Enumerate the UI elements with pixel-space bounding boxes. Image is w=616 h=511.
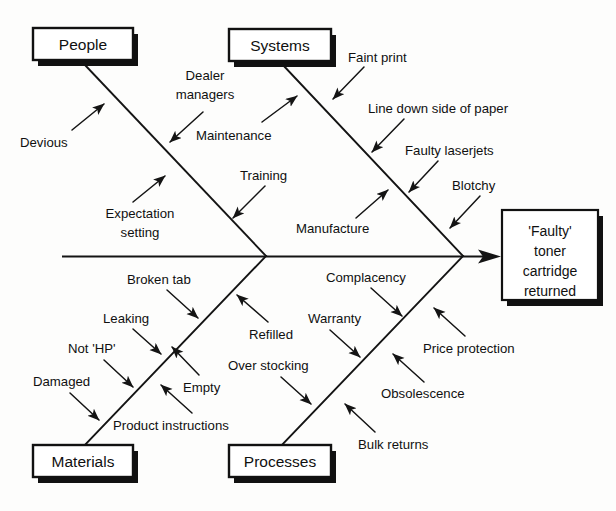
cause-label-price-protection: Price protection: [423, 341, 515, 356]
cause-refilled[interactable]: Refilled: [237, 295, 293, 342]
leader-not-hp: [104, 360, 133, 387]
cause-price-protection[interactable]: Price protection: [423, 308, 515, 356]
effect-line-4: returned: [524, 283, 576, 299]
cause-label-faulty-laserjets: Manufacture: [296, 221, 369, 236]
leader-price-protection: [434, 308, 465, 336]
leader-expectation-setting: [133, 176, 165, 202]
cause-empty[interactable]: Empty: [172, 347, 221, 395]
leader-devious: [72, 104, 104, 130]
leader-complacency: [371, 288, 402, 316]
category-box-systems[interactable]: Systems: [229, 29, 336, 67]
leader-obsolescence: [393, 354, 424, 382]
cause-damaged[interactable]: Damaged: [33, 374, 99, 420]
cause-label-expectation-setting-line2: setting: [121, 225, 160, 240]
category-box-people[interactable]: People: [33, 28, 138, 66]
effect-box[interactable]: 'Faulty' toner cartridge returned: [502, 210, 603, 306]
category-label-systems: Systems: [250, 37, 310, 54]
cause-maintenance[interactable]: Maintenance: [196, 96, 297, 143]
cause-label-empty: Empty: [183, 380, 221, 395]
cause-label-dealer-managers-line2: managers: [176, 87, 235, 102]
leader-warranty: [330, 330, 360, 357]
cause-label-faint-print: Faint print: [348, 50, 407, 65]
cause-label-warranty: Warranty: [308, 311, 361, 326]
cause-faint-print[interactable]: Faint print: [333, 50, 407, 99]
cause-devious[interactable]: Devious: [20, 104, 104, 150]
effect-line-1: 'Faulty': [528, 223, 571, 239]
cause-label-training: Training: [240, 168, 287, 183]
cause-label-damaged: Damaged: [33, 374, 90, 389]
cause-faulty-laserjets[interactable]: Manufacture: [296, 190, 388, 236]
leader-manufacture: [409, 161, 438, 192]
cause-training[interactable]: Training: [233, 168, 287, 218]
leader-maintenance: [262, 96, 297, 122]
cause-blotchy[interactable]: Blotchy: [450, 178, 496, 228]
leader-leaking: [133, 329, 161, 354]
leader-over-stocking: [281, 377, 311, 404]
leader-damaged: [70, 393, 99, 420]
category-box-materials[interactable]: Materials: [33, 445, 138, 483]
cause-label-blotchy: Blotchy: [452, 178, 496, 193]
cause-label-manufacture: Faulty laserjets: [405, 143, 494, 158]
cause-label-maintenance: Maintenance: [196, 128, 272, 143]
cause-label-dealer-managers-line1: Dealer: [186, 68, 225, 83]
leader-faint-print: [333, 67, 364, 99]
cause-over-stocking[interactable]: Over stocking: [228, 358, 311, 404]
cause-label-line-down-side: Line down side of paper: [368, 101, 509, 116]
leader-refilled: [237, 295, 268, 322]
category-label-people: People: [59, 36, 107, 53]
category-label-materials: Materials: [52, 453, 115, 470]
category-label-processes: Processes: [244, 453, 317, 470]
leader-faulty-laserjets: [356, 190, 388, 218]
leader-blotchy: [450, 196, 480, 228]
cause-warranty[interactable]: Warranty: [308, 311, 361, 357]
leader-training: [233, 186, 265, 218]
spine-group: [62, 250, 501, 264]
cause-label-over-stocking: Over stocking: [228, 358, 309, 373]
cause-obsolescence[interactable]: Obsolescence: [381, 354, 465, 401]
cause-label-bulk-returns: Bulk returns: [358, 437, 429, 452]
leader-bulk-returns: [345, 404, 375, 432]
effect-line-2: toner: [534, 243, 566, 259]
category-box-processes[interactable]: Processes: [229, 445, 336, 483]
cause-bulk-returns[interactable]: Bulk returns: [345, 404, 429, 452]
cause-label-not-hp: Not 'HP': [68, 341, 116, 356]
cause-label-broken-tab: Broken tab: [127, 272, 191, 287]
cause-expectation-setting[interactable]: Expectation setting: [106, 176, 175, 240]
leader-line-down-side: [372, 119, 404, 152]
leader-broken-tab: [167, 290, 198, 318]
fishbone-diagram-canvas: People Systems Materials Processes 'Faul…: [0, 0, 616, 511]
cause-label-refilled: Refilled: [249, 327, 293, 342]
effect-line-3: cartridge: [523, 263, 578, 279]
fishbone-diagram: People Systems Materials Processes 'Faul…: [0, 0, 616, 511]
leader-empty: [172, 347, 199, 375]
cause-label-leaking: Leaking: [103, 311, 149, 326]
cause-label-obsolescence: Obsolescence: [381, 386, 465, 401]
cause-label-complacency: Complacency: [326, 270, 406, 285]
cause-label-expectation-setting-line1: Expectation: [106, 206, 175, 221]
cause-label-product-instructions: Product instructions: [113, 418, 229, 433]
cause-complacency[interactable]: Complacency: [326, 270, 406, 316]
cause-label-devious: Devious: [20, 135, 68, 150]
